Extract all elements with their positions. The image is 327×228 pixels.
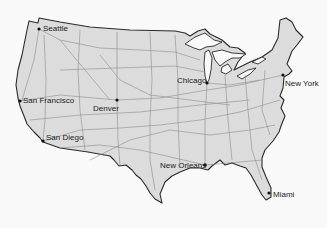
city-label-seattle: Seattle [43, 25, 68, 33]
city-label-san-francisco: San Francisco [23, 97, 74, 105]
us-landmass [16, 18, 303, 203]
city-label-new-york: New York [285, 80, 319, 88]
city-label-chicago: Chicago [177, 77, 206, 85]
city-label-denver: Denver [93, 105, 119, 113]
city-label-new-orleans: New Orleans [160, 162, 206, 170]
city-label-miami: Miami [273, 191, 294, 199]
city-label-san-diego: San Diego [46, 134, 83, 142]
